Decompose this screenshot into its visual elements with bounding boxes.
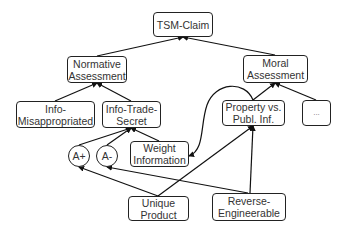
- node-a-plus: A+: [68, 145, 90, 167]
- node-normative-assessment: Normative Assessment: [67, 56, 127, 83]
- edge-reverse-to-aminus: [107, 167, 248, 193]
- edge-moral-to-tsm: [183, 37, 275, 55]
- edge-ellipsis-to-moral: [275, 83, 316, 100]
- edge-misappropriated-to-normative: [55, 83, 97, 101]
- edge-normative-to-tsm: [97, 37, 183, 56]
- node-weight-information: Weight Information: [130, 141, 189, 167]
- edge-property-to-moral: [253, 83, 275, 100]
- node-reverse-engineerable: Reverse-Engineerable: [212, 193, 286, 221]
- node-unique-product: Unique Product: [128, 196, 189, 221]
- node-label: Info-Trade-Secret: [105, 103, 158, 127]
- edge-aplus-to-tradesecret: [79, 128, 131, 145]
- node-label: Reverse-Engineerable: [215, 195, 283, 219]
- edge-reverse-to-property: [250, 126, 253, 193]
- node-label: Property vs. Publ. Inf.: [225, 101, 282, 125]
- node-tsm-claim: TSM-Claim: [153, 12, 213, 37]
- edge-weight-to-tradesecret: [131, 128, 159, 141]
- edge-unique-to-aplus: [79, 167, 158, 196]
- node-label: Info-Misappropriated: [18, 103, 93, 127]
- node-label: Normative Assessment: [68, 58, 125, 82]
- edge-aminus-to-tradesecret: [107, 128, 131, 145]
- node-label: A-: [102, 150, 113, 162]
- node-property-vs-publ-inf: Property vs. Publ. Inf.: [222, 100, 285, 126]
- node-moral-assessment: Moral Assessment: [243, 55, 308, 83]
- node-label: Weight Information: [133, 142, 186, 166]
- node-label: TSM-Claim: [157, 19, 210, 31]
- node-label: A+: [72, 150, 85, 162]
- node-label: ...: [313, 107, 320, 119]
- node-label: Unique Product: [131, 197, 186, 221]
- node-info-misappropriated: Info-Misappropriated: [16, 101, 95, 128]
- node-label: Moral Assessment: [246, 57, 305, 81]
- edge-tradesecret-to-normative: [97, 83, 131, 101]
- node-a-minus: A-: [96, 145, 118, 167]
- node-info-trade-secret: Info-Trade-Secret: [102, 101, 161, 128]
- node-ellipsis: ...: [302, 100, 331, 126]
